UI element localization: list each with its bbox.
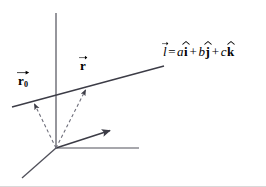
unit-vector-i-letter: i <box>184 44 188 59</box>
vector-r0-dashed <box>35 104 57 148</box>
unit-vector-j-letter: j <box>205 44 209 59</box>
equation-lhs-letter: l <box>163 44 167 59</box>
label-vector-r: r <box>80 59 86 72</box>
axis-lower-left-extension <box>22 148 56 178</box>
label-vector-r0: r0 <box>18 74 28 87</box>
equation-operator-plus-1: + <box>188 45 198 58</box>
vector-r0-letter: r <box>18 73 24 88</box>
unit-vector-i: i <box>183 45 188 58</box>
axis-y-diagonal <box>56 131 110 149</box>
unit-vector-j: j <box>205 45 210 58</box>
vector-line-diagram: r0 r l = a i + b j + c k <box>0 0 266 187</box>
line-l <box>12 66 164 107</box>
unit-vector-k: k <box>226 45 234 58</box>
vector-symbol-r0: r0 <box>18 74 28 87</box>
equation-lhs-vector-l: l <box>163 45 167 58</box>
vector-r-letter: r <box>80 58 86 73</box>
vector-symbol-r: r <box>80 59 86 72</box>
unit-vector-k-letter: k <box>227 44 234 59</box>
diagram-canvas <box>0 0 266 187</box>
equation-operator-plus-2: + <box>210 45 220 58</box>
equation-line-vector: l = a i + b j + c k <box>163 45 235 58</box>
equation-equals-sign: = <box>167 45 177 58</box>
vector-r0-subscript: 0 <box>24 80 28 89</box>
